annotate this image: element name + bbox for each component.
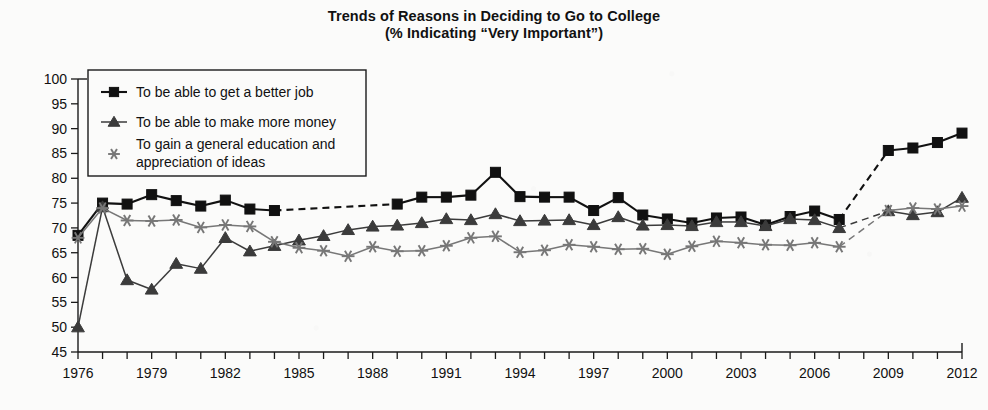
marker-square	[540, 192, 550, 202]
series-segment	[78, 207, 103, 327]
marker-square	[109, 87, 118, 96]
marker-square	[441, 192, 451, 202]
marker-triangle	[956, 191, 969, 202]
series-segment	[446, 238, 471, 246]
legend-item-2: To be able to make more money	[101, 114, 336, 130]
y-tick-label: 50	[51, 319, 67, 335]
x-tick-label: 2000	[652, 365, 683, 381]
x-tick-label: 2003	[725, 365, 756, 381]
marker-square	[613, 193, 623, 203]
marker-triangle	[219, 232, 232, 243]
y-tick-label: 85	[51, 145, 67, 161]
marker-square	[883, 145, 893, 155]
marker-triangle	[170, 257, 183, 268]
legend-label-cont: appreciation of ideas	[136, 154, 265, 170]
marker-square	[932, 138, 942, 148]
marker-triangle	[612, 211, 625, 222]
y-tick-label: 45	[51, 344, 67, 360]
marker-square	[564, 192, 574, 202]
x-tick-label: 2006	[799, 365, 830, 381]
series-segment-dashed	[274, 204, 397, 210]
chart-legend: To be able to get a better jobTo be able…	[88, 70, 366, 176]
x-tick-label: 2012	[946, 365, 977, 381]
x-tick-label: 1982	[210, 365, 241, 381]
series-segment-dashed	[839, 211, 888, 228]
x-tick-label: 2009	[873, 365, 904, 381]
marker-triangle	[563, 214, 576, 225]
x-tick-label: 1997	[578, 365, 609, 381]
chart-page: Trends of Reasons in Deciding to Go to C…	[0, 0, 988, 410]
legend-label: To be able to make more money	[136, 114, 336, 130]
marker-square	[515, 192, 525, 202]
series-segment	[667, 246, 692, 254]
legend-label: To be able to get a better job	[136, 84, 314, 100]
marker-triangle	[121, 274, 134, 285]
y-tick-label: 70	[51, 220, 67, 236]
marker-triangle	[489, 208, 502, 219]
marker-square	[122, 199, 132, 209]
y-tick-label: 100	[44, 71, 68, 87]
marker-square	[269, 206, 279, 216]
y-tick-label: 80	[51, 170, 67, 186]
marker-square	[466, 190, 476, 200]
series-segment	[495, 236, 520, 252]
marker-square	[220, 195, 230, 205]
x-tick-label: 1985	[283, 365, 314, 381]
y-tick-label: 95	[51, 96, 67, 112]
marker-square	[417, 192, 427, 202]
marker-triangle	[440, 213, 453, 224]
y-tick-label: 75	[51, 195, 67, 211]
marker-square	[245, 204, 255, 214]
marker-square	[589, 206, 599, 216]
x-tick-label: 1994	[504, 365, 535, 381]
x-tick-label: 1976	[62, 365, 93, 381]
marker-triangle	[72, 321, 85, 332]
marker-square	[908, 143, 918, 153]
series-segment	[250, 226, 275, 241]
y-tick-label: 55	[51, 294, 67, 310]
y-tick-label: 90	[51, 121, 67, 137]
marker-square	[147, 190, 157, 200]
y-tick-label: 65	[51, 245, 67, 261]
legend-item-1: To be able to get a better job	[101, 84, 314, 100]
legend-label: To gain a general education and	[136, 136, 335, 152]
x-tick-label: 1988	[357, 365, 388, 381]
series-2	[72, 191, 969, 331]
series-segment-dashed	[839, 211, 888, 247]
marker-square	[392, 199, 402, 209]
series-segment	[176, 220, 201, 227]
y-tick-label: 60	[51, 270, 67, 286]
marker-square	[196, 201, 206, 211]
x-tick-label: 1991	[431, 365, 462, 381]
marker-square	[490, 167, 500, 177]
series-segment-dashed	[839, 150, 888, 219]
legend-item-3: To gain a general education andappreciat…	[108, 136, 335, 170]
marker-square	[957, 128, 967, 138]
line-chart-plot: 4550556065707580859095100197619791982198…	[0, 0, 988, 410]
marker-square	[171, 196, 181, 206]
x-tick-label: 1979	[136, 365, 167, 381]
